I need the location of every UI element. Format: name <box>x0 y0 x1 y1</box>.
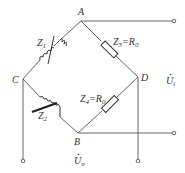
svg-text:Uo: Uo <box>74 155 85 168</box>
inductor-z2 <box>32 96 60 117</box>
svg-text:Ui: Ui <box>166 75 175 88</box>
inductor-z1 <box>40 36 67 64</box>
bridge-circuit-diagram: A C D B Z1 Z2 Z3=R0 Z4=R0 Ui Uo <box>0 0 185 173</box>
label-z4: Z4=R0 <box>80 93 106 106</box>
terminals <box>21 19 176 163</box>
node-label-a: A <box>77 6 85 17</box>
output-terminal-left <box>21 159 25 163</box>
label-z2: Z2 <box>38 110 48 123</box>
node-label-c: C <box>12 74 19 85</box>
input-terminal-bottom <box>172 131 176 135</box>
output-voltage-label: Uo <box>74 154 85 168</box>
node-label-b: B <box>74 136 80 147</box>
input-terminal-top <box>172 19 176 23</box>
node-label-d: D <box>140 72 149 83</box>
output-terminal-right <box>136 159 140 163</box>
label-z1: Z1 <box>37 37 46 50</box>
input-voltage-label: Ui <box>166 74 175 88</box>
label-z3: Z3=R0 <box>113 36 139 49</box>
